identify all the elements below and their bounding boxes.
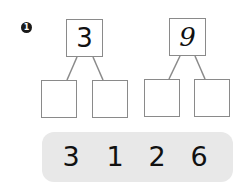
number-bank-item[interactable]: 1	[100, 140, 130, 174]
bond-2-part-2-box[interactable]	[194, 79, 230, 117]
number-bank-item[interactable]: 2	[142, 140, 172, 174]
number-bank-item[interactable]: 3	[56, 140, 86, 174]
number-bank-item[interactable]: 6	[184, 140, 214, 174]
bond-1-part-2-box[interactable]	[92, 80, 128, 118]
bond-2-whole-box: 9	[169, 18, 206, 56]
bond-2-part-1-box[interactable]	[144, 79, 180, 117]
number-bank: 3 1 2 6	[42, 132, 233, 182]
problem-number-marker: 1	[21, 22, 32, 33]
bond-1-whole-box: 3	[66, 19, 103, 57]
bond-1-part-1-box[interactable]	[41, 80, 77, 118]
